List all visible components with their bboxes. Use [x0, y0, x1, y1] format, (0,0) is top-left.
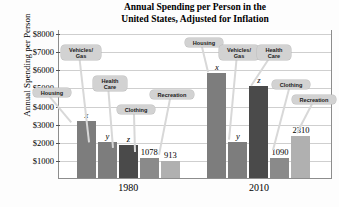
x-axis-label-2010: 2010	[249, 182, 269, 193]
bar-recreation-2010: 2310	[291, 136, 310, 178]
callout-label-line-2: Gas	[64, 53, 98, 59]
callout-vehicles-: Vehicles/Gas	[219, 45, 259, 60]
callout-label: Housing	[193, 40, 215, 46]
callout-label: Housing	[41, 90, 63, 96]
callout-housing: Housing	[185, 38, 223, 47]
y-axis-tick	[56, 34, 60, 35]
callout-label: Clothing	[280, 82, 303, 88]
y-axis-tick-label: $8000	[33, 29, 54, 39]
bar-health-care-2010: z	[249, 86, 268, 178]
y-axis-tick-label: $2000	[33, 138, 54, 148]
y-axis-tick-label: $6000	[33, 65, 54, 75]
bar-variable-label: z	[127, 134, 130, 144]
chart-title-line-1: Annual Spending per Person in the	[60, 2, 330, 14]
bar-value-label: 913	[164, 150, 177, 160]
callout-vehicles-: Vehicles/Gas	[61, 45, 101, 60]
callout-label: Vehicles/	[227, 47, 251, 53]
y-axis-tick	[56, 143, 60, 144]
y-axis-tick-label: $3000	[33, 120, 54, 130]
callout-recreation: Recreation	[150, 90, 194, 99]
bar-recreation-1980: 913	[161, 161, 180, 178]
chart-page: Annual Spending per Person in the United…	[0, 0, 339, 207]
bar-value-label: 1078	[141, 147, 158, 157]
bar-variable-label: y	[236, 131, 240, 141]
y-axis-tick-label: $7000	[33, 47, 54, 57]
bar-clothing-1980: 1078	[140, 158, 159, 178]
y-axis-tick-label: $1000	[33, 156, 54, 166]
gridline	[59, 107, 331, 108]
bar-vehicles-gas-2010: y	[228, 142, 247, 178]
callout-health: HealthCare	[93, 76, 127, 91]
y-axis-tick	[56, 161, 60, 162]
callout-label: Recreation	[300, 97, 329, 103]
callout-label: Health	[101, 78, 118, 84]
bar-variable-label: y	[105, 131, 109, 141]
callout-label: Recreation	[158, 92, 187, 98]
gridline	[59, 125, 331, 126]
y-axis-tick	[56, 52, 60, 53]
callout-label-line-2: Gas	[222, 53, 256, 59]
x-axis-label-1980: 1980	[118, 182, 138, 193]
y-axis-tick-label: $4000	[33, 102, 54, 112]
y-axis-tick	[56, 125, 60, 126]
callout-housing: Housing	[33, 88, 71, 97]
callout-label-line-2: Care	[96, 84, 124, 90]
chart-title-line-2: United States, Adjusted for Inflation	[60, 14, 330, 26]
chart-title: Annual Spending per Person in the United…	[60, 2, 330, 25]
callout-label-line-2: Care	[260, 53, 288, 59]
gridline	[59, 34, 331, 35]
bar-clothing-2010: 1090	[270, 158, 289, 178]
callout-clothing: Clothing	[117, 105, 155, 114]
gridline	[59, 70, 331, 71]
y-axis-title: Annual Spending per Person	[22, 0, 32, 140]
callout-recreation: Recreation	[292, 95, 336, 104]
callout-health: HealthCare	[257, 45, 291, 60]
callout-clothing: Clothing	[272, 80, 310, 89]
bar-variable-label: x	[215, 62, 219, 72]
callout-label: Clothing	[125, 107, 148, 113]
callout-label: Health	[265, 47, 282, 53]
callout-label: Vehicles/	[69, 47, 93, 53]
bar-housing-2010: x	[207, 73, 226, 178]
y-axis-tick	[56, 70, 60, 71]
